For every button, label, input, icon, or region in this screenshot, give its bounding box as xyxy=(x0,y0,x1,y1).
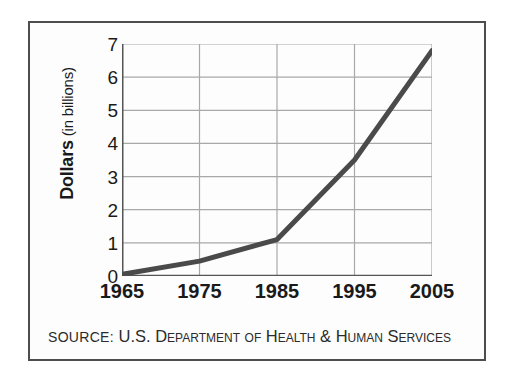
source-note-text: SOURCE: U.S. Department of Health & Huma… xyxy=(30,327,451,346)
chart-canvas xyxy=(122,44,432,276)
y-axis-tick-label: 5 xyxy=(92,101,118,120)
source-label: SOURCE: xyxy=(48,329,114,345)
axes xyxy=(122,44,432,276)
y-axis-tick-label: 4 xyxy=(92,134,118,153)
source-note: SOURCE: U.S. Department of Health & Huma… xyxy=(30,313,488,359)
y-axis-tick-label: 7 xyxy=(92,35,118,54)
y-axis-tick-label: 2 xyxy=(92,200,118,219)
x-axis-tick-label: 1985 xyxy=(255,281,300,301)
y-axis-tick-label: 3 xyxy=(92,167,118,186)
y-axis-tick-label: 1 xyxy=(92,233,118,252)
chart-figure: Dollars (in billions) 01234567 196519751… xyxy=(28,21,486,361)
plot-area: Dollars (in billions) 01234567 196519751… xyxy=(30,23,488,291)
x-axis-tick-label: 1975 xyxy=(177,281,222,301)
y-axis-title-strong: Dollars xyxy=(57,140,77,200)
x-axis-tick-label: 1995 xyxy=(332,281,377,301)
source-body: U.S. Department of Health & Human Servic… xyxy=(114,327,451,345)
y-axis-tick-labels: 01234567 xyxy=(92,23,118,291)
y-axis-title: Dollars (in billions) xyxy=(57,39,78,229)
y-axis-tick-label: 6 xyxy=(92,68,118,87)
x-axis-tick-labels: 19651975198519952005 xyxy=(122,281,432,311)
y-axis-title-light: (in billions) xyxy=(59,67,76,140)
x-axis-tick-label: 1965 xyxy=(100,281,145,301)
x-axis-tick-label: 2005 xyxy=(410,281,455,301)
